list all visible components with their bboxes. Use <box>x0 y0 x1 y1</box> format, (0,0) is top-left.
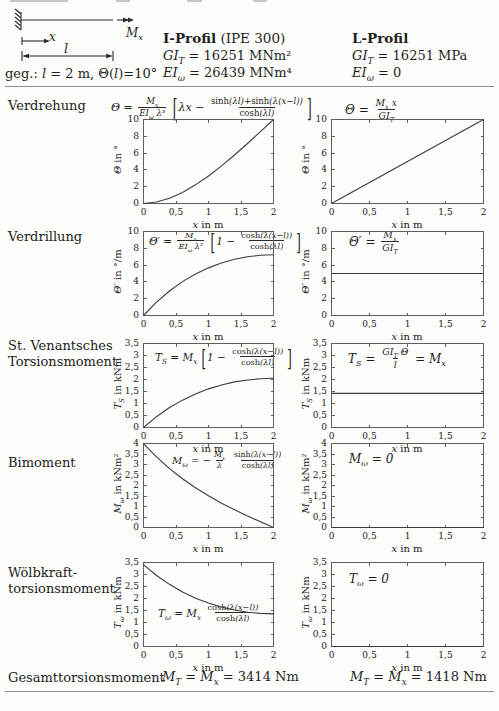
header-divider <box>5 86 494 87</box>
row-label-woelbkraft-2: torsionsmoment <box>8 581 115 597</box>
textbook-page: Mx x l geg.: l = 2 m, Θ(l)=10° I-Profil … <box>0 0 499 711</box>
x-tick-label: 1 <box>197 650 221 661</box>
row-label-verdrillung: Verdrillung <box>8 229 82 245</box>
total-moment-i-profil: MT = Mx = 3414 Nm <box>162 669 299 684</box>
x-tick-label: 1,5 <box>434 531 458 542</box>
y-axis-title: Θ in ° <box>112 118 123 202</box>
x-tick-label: 2 <box>262 531 286 542</box>
cropped-text-fragment <box>187 0 202 2</box>
x-tick-label: 0 <box>132 207 156 218</box>
x-tick-label: 1 <box>197 207 221 218</box>
i-profil-title-bold: I-Profil <box>163 30 216 46</box>
x-tick-label: 2 <box>472 319 496 330</box>
y-axis-title: TS in kNm <box>112 342 123 426</box>
bottom-divider <box>5 691 494 692</box>
x-tick-label: 2 <box>472 531 496 542</box>
x-tick-label: 1,5 <box>229 207 253 218</box>
x-tick-label: 0 <box>132 531 156 542</box>
plot-canvas <box>143 231 274 316</box>
i-profil-git: GIT = 16251 MNm² <box>163 47 343 64</box>
y-axis-title: Tω in kNm <box>112 561 123 645</box>
l-profil-git: GIT = 16251 MPa <box>352 47 492 64</box>
y-axis-title: Mω in kNm² <box>112 442 123 526</box>
chart-verdrehung-i-profil: 024681000,511,52x in mΘ in ° <box>107 111 285 233</box>
x-tick-label: 1,5 <box>229 650 253 661</box>
y-axis-title: Tω in kNm <box>300 561 311 645</box>
x-tick-label: 2 <box>472 650 496 661</box>
row-label-st-venant-2: Torsionsmoment <box>8 354 117 370</box>
x-tick-label: 0 <box>320 207 344 218</box>
x-tick-label: 1,5 <box>434 650 458 661</box>
i-profil-title-rest: (IPE 300) <box>216 30 285 46</box>
x-tick-label: 1 <box>197 531 221 542</box>
plot-canvas <box>143 343 274 428</box>
i-profil-title: I-Profil (IPE 300) <box>163 30 343 47</box>
row-label-woelbkraft-1: Wölbkraft- <box>8 565 77 581</box>
x-axis-title: x in m <box>178 543 238 554</box>
chart-woelbkraft-l-profil: 00,511,522,533,500,511,52x in mTω in kNm <box>295 554 495 676</box>
plot-canvas <box>143 562 274 647</box>
l-profil-eiw: EIω = 0 <box>352 64 492 81</box>
x-tick-label: 0 <box>132 650 156 661</box>
chart-verdrillung-l-profil: 024681000,511,52x in mΘ′ in °/m <box>295 223 495 345</box>
x-tick-label: 0,5 <box>358 650 382 661</box>
x-tick-label: 0 <box>132 319 156 330</box>
i-profil-eiw: EIω = 26439 MNm⁴ <box>163 64 343 81</box>
moment-label: Mx <box>126 26 143 40</box>
plot-canvas <box>143 119 274 204</box>
plot-canvas <box>331 443 484 528</box>
x-tick-label: 1 <box>396 650 420 661</box>
plot-canvas <box>143 443 274 528</box>
chart-verdrillung-i-profil: 024681000,511,52x in mΘ′ in °/m <box>107 223 285 345</box>
x-tick-label: 2 <box>262 207 286 218</box>
row-label-bimoment: Bimoment <box>8 455 75 471</box>
x-axis-label: x <box>49 30 56 44</box>
x-tick-label: 0,5 <box>164 531 188 542</box>
chart-woelbkraft-i-profil: 00,511,522,533,500,511,52x in mTω in kNm <box>107 554 285 676</box>
x-tick-label: 0,5 <box>358 319 382 330</box>
plot-canvas <box>331 231 484 316</box>
x-tick-label: 0 <box>320 531 344 542</box>
dimension-arrowhead <box>106 54 113 58</box>
x-tick-label: 1,5 <box>434 207 458 218</box>
y-axis-title: Mω in kNm² <box>300 442 311 526</box>
row-label-verdrehung: Verdrehung <box>8 98 86 114</box>
x-tick-label: 0,5 <box>164 319 188 330</box>
i-profil-header: I-Profil (IPE 300) GIT = 16251 MNm² EIω … <box>163 30 343 81</box>
length-label: l <box>64 41 68 56</box>
chart-verdrehung-l-profil: 024681000,511,52x in mΘ in ° <box>295 111 495 233</box>
y-axis-title: TS in kNm <box>300 342 311 426</box>
y-axis-title: Θ′ in °/m <box>112 230 123 314</box>
row-label-st-venant-1: St. Venantsches <box>8 338 113 354</box>
l-profil-title: L-Profil <box>352 30 492 47</box>
given-values: geg.: l = 2 m, Θ(l)=10° <box>5 66 157 81</box>
chart-bimoment-l-profil: 00,511,522,533,5400,511,52x in mMω in kN… <box>295 435 495 557</box>
x-tick-label: 2 <box>262 650 286 661</box>
x-tick-label: 1 <box>396 319 420 330</box>
x-tick-label: 0,5 <box>164 207 188 218</box>
x-axis-title: x in m <box>377 543 437 554</box>
cropped-text-fragment <box>253 0 267 2</box>
x-tick-label: 0,5 <box>358 531 382 542</box>
x-tick-label: 1 <box>197 319 221 330</box>
y-axis-title: Θ in ° <box>300 118 311 202</box>
x-tick-label: 1,5 <box>229 531 253 542</box>
x-tick-label: 1 <box>396 207 420 218</box>
x-tick-label: 0 <box>320 650 344 661</box>
x-tick-label: 1,5 <box>229 319 253 330</box>
l-profil-header: L-Profil GIT = 16251 MPa EIω = 0 <box>352 30 492 81</box>
x-tick-label: 2 <box>472 207 496 218</box>
l-profil-title-bold: L-Profil <box>352 30 408 46</box>
x-tick-label: 2 <box>262 319 286 330</box>
plot-canvas <box>331 119 484 204</box>
plot-canvas <box>331 562 484 647</box>
row-label-gesamttorsionsmoment: Gesamttorsionsmoment <box>8 670 165 686</box>
plot-canvas <box>331 343 484 428</box>
x-tick-label: 0,5 <box>164 650 188 661</box>
y-axis-title: Θ′ in °/m <box>300 230 311 314</box>
x-tick-label: 1 <box>396 531 420 542</box>
x-tick-label: 1,5 <box>434 319 458 330</box>
dimension-arrowhead <box>22 54 29 58</box>
x-tick-label: 0,5 <box>358 207 382 218</box>
total-moment-l-profil: MT = Mx = 1418 Nm <box>350 669 487 684</box>
